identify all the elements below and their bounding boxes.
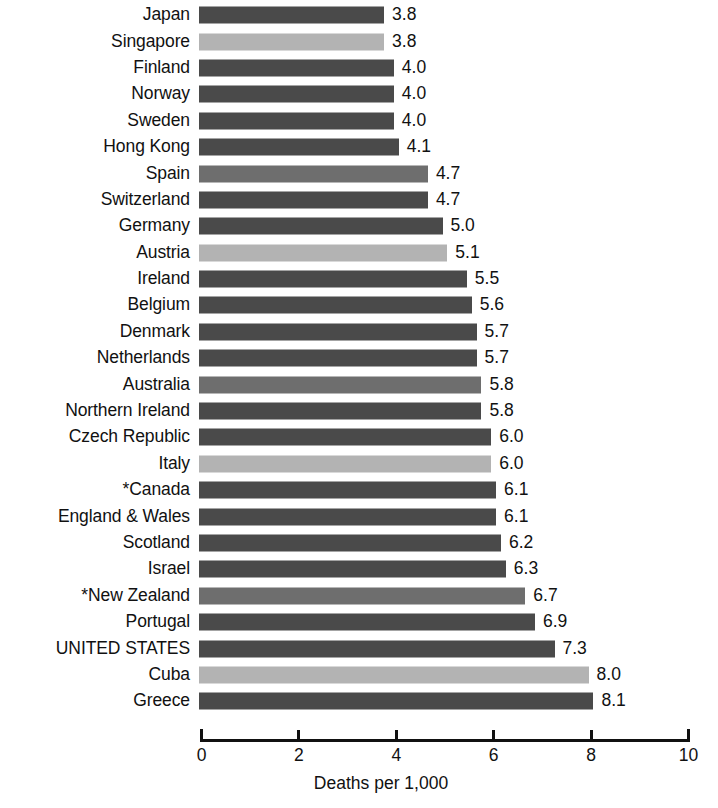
axis-tick-label: 8 bbox=[586, 747, 596, 765]
bar-row: Hong Kong4.1 bbox=[0, 134, 718, 160]
bar-track bbox=[199, 244, 447, 261]
bar-category-label: England & Wales bbox=[58, 508, 190, 526]
bar-category-label: Cuba bbox=[149, 666, 190, 684]
bar-row: *Canada6.1 bbox=[0, 477, 718, 503]
bar-value-label: 4.0 bbox=[402, 86, 426, 104]
bar-row: England & Wales6.1 bbox=[0, 503, 718, 529]
bar-row: Ireland5.5 bbox=[0, 266, 718, 292]
bar-track bbox=[199, 614, 535, 631]
bar-track bbox=[199, 297, 472, 314]
bar-value-label: 5.6 bbox=[480, 297, 504, 315]
bar-track bbox=[199, 535, 501, 552]
bar-row: Germany5.0 bbox=[0, 213, 718, 239]
bar-track bbox=[199, 429, 491, 446]
bar-value-label: 3.8 bbox=[392, 33, 416, 51]
bar bbox=[199, 535, 501, 552]
bar-track bbox=[199, 561, 506, 578]
bar-value-label: 8.0 bbox=[597, 666, 621, 684]
bar-row: Singapore3.8 bbox=[0, 28, 718, 54]
bar bbox=[199, 429, 491, 446]
bar-value-label: 5.5 bbox=[475, 270, 499, 288]
bar-value-label: 6.7 bbox=[533, 587, 557, 605]
bar-track bbox=[199, 271, 467, 288]
bar-track bbox=[199, 33, 384, 50]
bar-row: Spain4.7 bbox=[0, 160, 718, 186]
bar bbox=[199, 218, 443, 235]
bar-track bbox=[199, 693, 593, 710]
bar-category-label: Portugal bbox=[126, 613, 190, 631]
bar-value-label: 6.2 bbox=[509, 534, 533, 552]
bar-track bbox=[199, 191, 428, 208]
bar bbox=[199, 191, 428, 208]
bar-value-label: 5.8 bbox=[489, 376, 513, 394]
bar-category-label: Switzerland bbox=[101, 191, 190, 209]
bar bbox=[199, 244, 447, 261]
bar-row: Denmark5.7 bbox=[0, 319, 718, 345]
axis-tick bbox=[297, 730, 300, 739]
bar-category-label: Northern Ireland bbox=[65, 402, 190, 420]
bar-category-label: Czech Republic bbox=[69, 429, 190, 447]
bar-category-label: Japan bbox=[143, 6, 190, 24]
bar-row: *New Zealand6.7 bbox=[0, 583, 718, 609]
bar-row: Scotland6.2 bbox=[0, 530, 718, 556]
axis-tick bbox=[687, 729, 690, 742]
bar-category-label: Singapore bbox=[111, 33, 190, 51]
bar-value-label: 4.0 bbox=[402, 59, 426, 77]
bar-track bbox=[199, 587, 525, 604]
x-axis: 0246810 Deaths per 1,000 bbox=[0, 727, 718, 787]
bar bbox=[199, 7, 384, 24]
bar-track bbox=[199, 112, 394, 129]
bar-value-label: 6.3 bbox=[514, 561, 538, 579]
bar-category-label: Finland bbox=[133, 59, 190, 77]
bar-track bbox=[199, 350, 477, 367]
bar-category-label: Belgium bbox=[127, 297, 190, 315]
bar-value-label: 5.7 bbox=[485, 323, 509, 341]
bar bbox=[199, 165, 428, 182]
bar-track bbox=[199, 376, 481, 393]
bar-row: Belgium5.6 bbox=[0, 292, 718, 318]
axis-baseline bbox=[200, 739, 690, 742]
bar-value-label: 6.0 bbox=[499, 455, 523, 473]
bar-track bbox=[199, 455, 491, 472]
bar bbox=[199, 271, 467, 288]
bar bbox=[199, 455, 491, 472]
bar-category-label: *Canada bbox=[123, 481, 190, 499]
bar-row: Greece8.1 bbox=[0, 688, 718, 714]
bar bbox=[199, 587, 525, 604]
x-axis-title: Deaths per 1,000 bbox=[0, 775, 718, 793]
bar-value-label: 5.1 bbox=[455, 244, 479, 262]
axis-tick-label: 0 bbox=[197, 747, 207, 765]
bar bbox=[199, 139, 399, 156]
bar-row: Israel6.3 bbox=[0, 556, 718, 582]
bar-track bbox=[199, 139, 399, 156]
bar bbox=[199, 614, 535, 631]
axis-tick-label: 6 bbox=[489, 747, 499, 765]
bar-row: Switzerland4.7 bbox=[0, 187, 718, 213]
bar-value-label: 5.8 bbox=[489, 402, 513, 420]
bar bbox=[199, 33, 384, 50]
bar-value-label: 8.1 bbox=[601, 693, 625, 711]
bar-value-label: 6.1 bbox=[504, 508, 528, 526]
bar-row: Australia5.8 bbox=[0, 371, 718, 397]
axis-tick bbox=[395, 730, 398, 739]
bar-value-label: 5.0 bbox=[451, 218, 475, 236]
axis-tick bbox=[590, 730, 593, 739]
bar bbox=[199, 112, 394, 129]
bar-track bbox=[199, 218, 443, 235]
bar bbox=[199, 376, 481, 393]
bar-category-label: *New Zealand bbox=[81, 587, 190, 605]
bar bbox=[199, 297, 472, 314]
bar-row: Netherlands5.7 bbox=[0, 345, 718, 371]
bar bbox=[199, 508, 496, 525]
bar-category-label: Scotland bbox=[123, 534, 190, 552]
bar-category-label: Israel bbox=[148, 561, 190, 579]
x-axis-title-text: Deaths per 1,000 bbox=[314, 775, 448, 793]
bar-category-label: Spain bbox=[146, 165, 190, 183]
bar-row: Norway4.0 bbox=[0, 81, 718, 107]
bar-track bbox=[199, 508, 496, 525]
bar bbox=[199, 666, 589, 683]
bar-row: UNITED STATES7.3 bbox=[0, 635, 718, 661]
bar-value-label: 3.8 bbox=[392, 6, 416, 24]
bar-value-label: 6.9 bbox=[543, 613, 567, 631]
bar-row: Portugal6.9 bbox=[0, 609, 718, 635]
